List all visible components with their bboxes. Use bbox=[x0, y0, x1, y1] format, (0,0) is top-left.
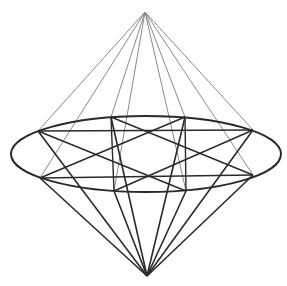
lower-cone-lines bbox=[38, 117, 253, 276]
star-line bbox=[111, 117, 253, 175]
lower-cone-line bbox=[147, 130, 253, 276]
upper-cone-line bbox=[38, 12, 145, 131]
base-ellipse bbox=[11, 116, 281, 192]
double-cone-diagram bbox=[0, 0, 287, 286]
upper-cone-line bbox=[145, 12, 186, 191]
lower-cone-line bbox=[147, 117, 185, 276]
star-line bbox=[185, 117, 186, 191]
upper-cone-line bbox=[145, 12, 253, 175]
lower-cone-line bbox=[147, 191, 186, 276]
octagram-star bbox=[38, 117, 253, 191]
upper-cone-line bbox=[145, 12, 253, 130]
upper-cone-line bbox=[111, 12, 145, 117]
lower-cone-line bbox=[147, 175, 253, 276]
upper-cone-lines bbox=[38, 12, 253, 191]
